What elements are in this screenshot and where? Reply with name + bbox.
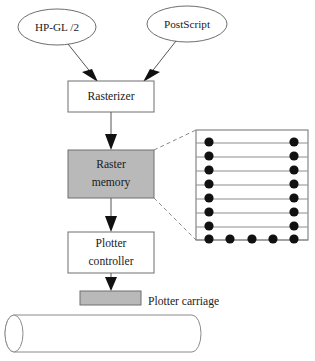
plotter-controller-label-line2: controller — [88, 255, 133, 268]
grid-dot — [268, 234, 277, 243]
grid-dot — [247, 234, 256, 243]
arrow-plotter-controller-to-carriage — [105, 273, 117, 291]
grid-dot — [289, 151, 298, 160]
arrow-head-glyph — [105, 134, 117, 150]
grid-dot — [289, 179, 298, 188]
plotter-drum — [5, 315, 201, 352]
arrow-head-glyph — [105, 277, 117, 291]
callout-raster-memory-detail — [154, 130, 196, 240]
grid-dot — [204, 179, 213, 188]
rasterizer-label: Rasterizer — [88, 90, 135, 103]
arrow-raster-memory-to-plotter-controller — [105, 198, 117, 232]
grid-dot — [289, 137, 298, 146]
arrow-shaft — [150, 41, 176, 74]
raster-memory-label-line1: Raster — [96, 158, 126, 171]
raster-grid-detail — [196, 130, 308, 244]
grid-dot — [204, 193, 213, 202]
input-node-hpgl2[interactable]: HP-GL /2 — [18, 9, 96, 45]
arrow-hpgl2-to-rasterizer — [68, 44, 98, 82]
grid-dot — [289, 207, 298, 216]
plotter-drum-body — [5, 315, 201, 352]
callout-leader-top — [154, 130, 196, 150]
grid-dot — [289, 221, 298, 230]
arrow-rasterizer-to-raster-memory — [105, 112, 117, 150]
plotter-pipeline-diagram: HP-GL /2 PostScript Rasterizer — [0, 0, 315, 361]
grid-dot — [289, 234, 298, 243]
process-node-raster-memory[interactable]: Raster memory — [68, 150, 154, 198]
grid-dot — [204, 207, 213, 216]
arrow-shaft — [68, 44, 92, 74]
grid-dot — [289, 165, 298, 174]
grid-dot — [225, 234, 234, 243]
plotter-controller-label-line1: Plotter — [96, 237, 127, 250]
arrow-postscript-to-rasterizer — [143, 41, 176, 82]
grid-dot — [204, 151, 213, 160]
input-node-postscript[interactable]: PostScript — [147, 6, 227, 42]
plotter-drum-end-cap — [5, 315, 23, 352]
grid-dot — [289, 193, 298, 202]
grid-dot — [204, 165, 213, 174]
plotter-carriage-node[interactable] — [80, 291, 141, 305]
grid-dot — [204, 234, 213, 243]
raster-memory-label-line2: memory — [92, 176, 131, 189]
arrow-head-glyph — [105, 216, 117, 232]
plotter-carriage-label: Plotter carriage — [148, 295, 219, 308]
process-node-rasterizer[interactable]: Rasterizer — [68, 81, 154, 112]
hpgl2-label: HP-GL /2 — [35, 21, 79, 33]
grid-dot — [204, 221, 213, 230]
arrow-head-glyph — [82, 69, 98, 82]
process-node-plotter-controller[interactable]: Plotter controller — [68, 232, 154, 273]
arrow-head-glyph — [143, 69, 160, 82]
plotter-carriage-shape — [80, 291, 141, 305]
diagram-canvas: HP-GL /2 PostScript Rasterizer — [0, 0, 315, 361]
postscript-label: PostScript — [164, 18, 211, 30]
callout-leader-bottom — [154, 198, 196, 240]
grid-dot — [204, 137, 213, 146]
